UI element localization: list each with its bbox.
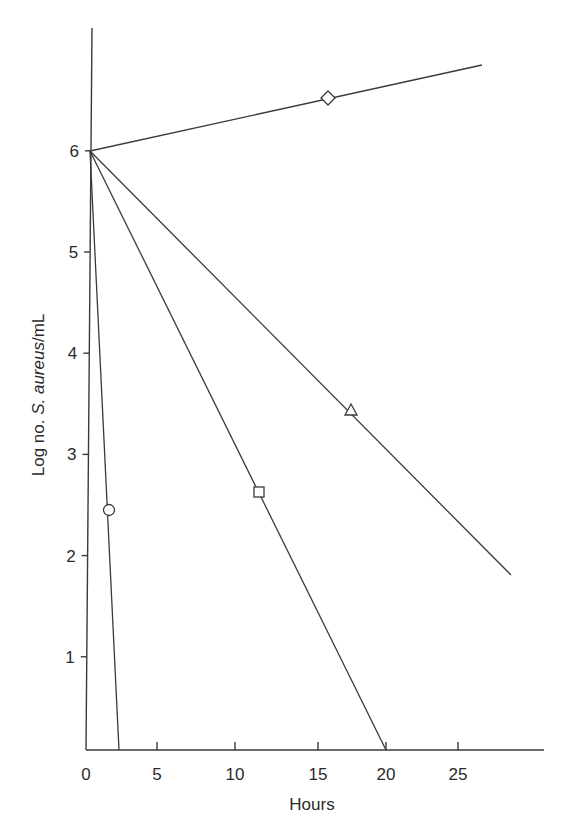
x-tick-label: 5 (152, 765, 161, 784)
chart: 123456 0510152025 Log no. S. aureus/mL H… (0, 0, 568, 834)
series-lines (90, 65, 511, 750)
x-tick-label: 25 (449, 765, 468, 784)
circle-marker-icon (104, 505, 115, 516)
y-tick-label: 3 (67, 445, 76, 464)
y-tick-label: 5 (69, 243, 78, 262)
triangle-series-line (90, 151, 511, 575)
y-tick-label: 1 (65, 648, 74, 667)
x-tick-label: 0 (81, 765, 90, 784)
y-axis (86, 28, 92, 750)
diamond-marker-icon (321, 91, 335, 105)
diamond-series-line (90, 65, 482, 151)
x-axis-title: Hours (289, 795, 334, 814)
y-tick-label: 2 (66, 547, 75, 566)
y-axis-title: Log no. S. aureus/mL (29, 314, 48, 477)
y-tick-label: 6 (70, 142, 79, 161)
x-tick-label: 20 (377, 765, 396, 784)
x-ticks: 0510152025 (81, 742, 467, 784)
square-series-line (90, 151, 386, 750)
x-tick-label: 10 (226, 765, 245, 784)
square-marker-icon (254, 487, 264, 497)
x-tick-label: 15 (309, 765, 328, 784)
y-tick-label: 4 (68, 344, 77, 363)
circle-series-line (90, 151, 119, 750)
